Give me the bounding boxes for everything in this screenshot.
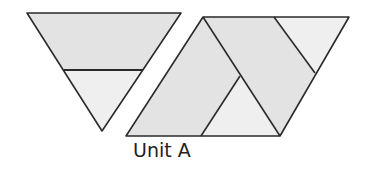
inverted-triangle-top-trapezoid xyxy=(27,13,181,70)
inverted-triangle-bottom-triangle xyxy=(64,70,143,131)
unit-label: Unit A xyxy=(133,138,191,162)
